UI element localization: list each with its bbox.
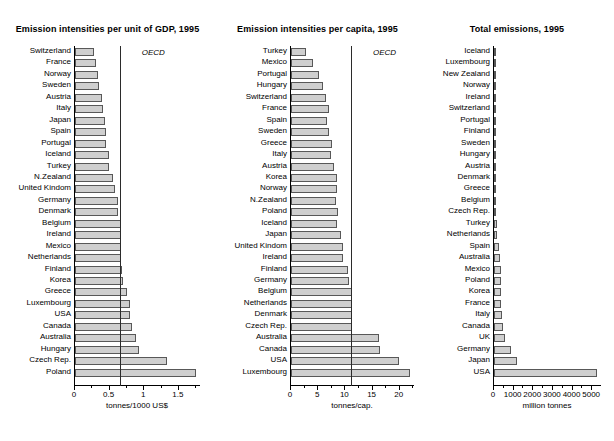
bar [494,369,597,377]
bar [75,266,122,274]
bar [291,277,349,285]
category-label: United Kindom [235,241,287,251]
bar-row: Finland [493,127,601,137]
category-label: Hungary [257,80,287,90]
bar-row: Austria [493,162,601,172]
x-tick-label: 1 [141,390,145,399]
bar [494,151,496,159]
category-label: Greece [464,183,490,193]
bar [75,140,106,148]
category-label: Mexico [465,264,490,274]
bar [494,323,503,331]
bar-row: Germany [493,345,601,355]
x-minor-tick [358,386,359,388]
bar-row: Australia [290,333,414,343]
bar [291,163,334,171]
plot-area: TurkeyMexicoPortugalHungarySwitzerlandFr… [290,46,414,386]
bar [75,174,113,182]
category-label: Italy [272,149,287,159]
category-label: Italy [56,103,71,113]
bar-row: Sweden [290,127,414,137]
bar [494,105,496,113]
bar-row: Portugal [493,116,601,126]
bar-row: Australia [493,253,601,263]
bar-row: Korea [290,173,414,183]
bar-row: Switzerland [290,93,414,103]
bar-row: Mexico [290,58,414,68]
category-label: Belgium [258,286,287,296]
bar-row: Mexico [493,265,601,275]
x-minor-tick [91,386,92,388]
bar [75,71,98,79]
bar-row: Austria [290,162,414,172]
bar [494,254,500,262]
bar-row: Poland [290,207,414,217]
bar-row: Ireland [493,93,601,103]
category-label: Austria [465,161,490,171]
bar-row: Norway [74,70,200,80]
x-tick-label: 3000 [543,390,561,399]
bar [291,197,336,205]
bar [494,128,496,136]
bar [75,59,96,67]
category-label: Netherlands [447,229,490,239]
bar [291,151,331,159]
x-axis-title: million tonnes [523,401,572,410]
category-label: Canada [259,344,287,354]
bar-row: Hungary [493,150,601,160]
bar [494,334,505,342]
bar [494,346,511,354]
bar-row: N.Zealand [74,173,200,183]
bar [75,128,106,136]
bar-row: France [290,104,414,114]
bar [75,82,99,90]
category-label: Canada [43,321,71,331]
bar [494,288,501,296]
bar-row: Italy [290,150,414,160]
bar-row: Greece [74,287,200,297]
x-tick-label: 5000 [582,390,600,399]
bar-row: Korea [74,276,200,286]
bar [291,288,352,296]
plot-area: IcelandLuxembourgNew ZealandNorwayIrelan… [493,46,601,386]
bar [75,105,103,113]
bar [494,94,496,102]
bar [75,94,102,102]
category-label: Germany [38,195,71,205]
category-label: Greece [45,286,71,296]
bar [75,151,109,159]
category-label: Czech Rep. [245,321,287,331]
bar [494,220,497,228]
bar-row: Ireland [290,253,414,263]
bar-row: Greece [290,139,414,149]
x-axis-title: tonnes/cap. [331,401,372,410]
category-label: Poland [465,275,490,285]
category-label: Luxembourg [446,57,490,67]
bar-row: Ireland [74,230,200,240]
bar [494,48,496,56]
x-minor-tick [126,386,127,388]
bar-row: Czech Rep. [493,207,601,217]
bar [291,346,380,354]
category-label: Japan [468,355,490,365]
bar-row: Poland [493,276,601,286]
category-label: Switzerland [449,103,490,113]
category-label: Norway [463,80,490,90]
category-label: Switzerland [246,92,287,102]
bar [75,369,196,377]
bar [75,357,167,365]
bar [75,197,118,205]
category-label: Portugal [257,69,287,79]
x-tick-label: 0.5 [103,390,114,399]
bar-row: Greece [493,184,601,194]
x-minor-tick [195,386,196,388]
bar [75,117,105,125]
chart-panel-gdp-intensity: Emission intensities per unit of GDP, 19… [0,0,215,441]
x-minor-tick [503,386,504,388]
category-label: Luxembourg [27,298,71,308]
bar-row: Japan [74,116,200,126]
category-label: Czech Rep. [448,206,490,216]
category-label: Korea [266,172,287,182]
bar [75,277,123,285]
bar [291,71,319,79]
